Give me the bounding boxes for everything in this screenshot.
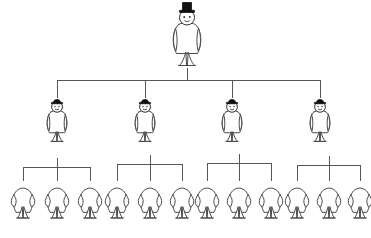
bowler-hat-brim [139,102,151,103]
face-eye-right [58,106,59,107]
figure-arm-right [239,115,242,131]
figure-arm-left [310,115,313,131]
face-eye-left [183,16,185,18]
figure-arm-right [197,29,201,51]
figure-arm-left [222,115,225,131]
face-eye-right [146,106,147,107]
face-eye-right [233,106,234,107]
hierarchy-diagram [0,0,371,238]
figure-arm-right [152,115,155,131]
figure-arm-left [47,115,50,131]
face-eye-left [317,106,318,107]
figure-arm-right [327,115,330,131]
bowler-hat-brim [51,102,63,103]
figure-arm-left [135,115,138,131]
face-eye-left [54,106,55,107]
hierarchy-canvas [0,0,371,238]
top-hat-brim [180,10,195,12]
figure-arm-left [173,29,177,51]
face-eye-left [142,106,143,107]
figure-arm-right [64,115,67,131]
face-eye-left [229,106,230,107]
face-eye-right [189,16,191,18]
face-eye-right [321,106,322,107]
bowler-hat-brim [226,102,238,103]
bowler-hat-brim [314,102,326,103]
